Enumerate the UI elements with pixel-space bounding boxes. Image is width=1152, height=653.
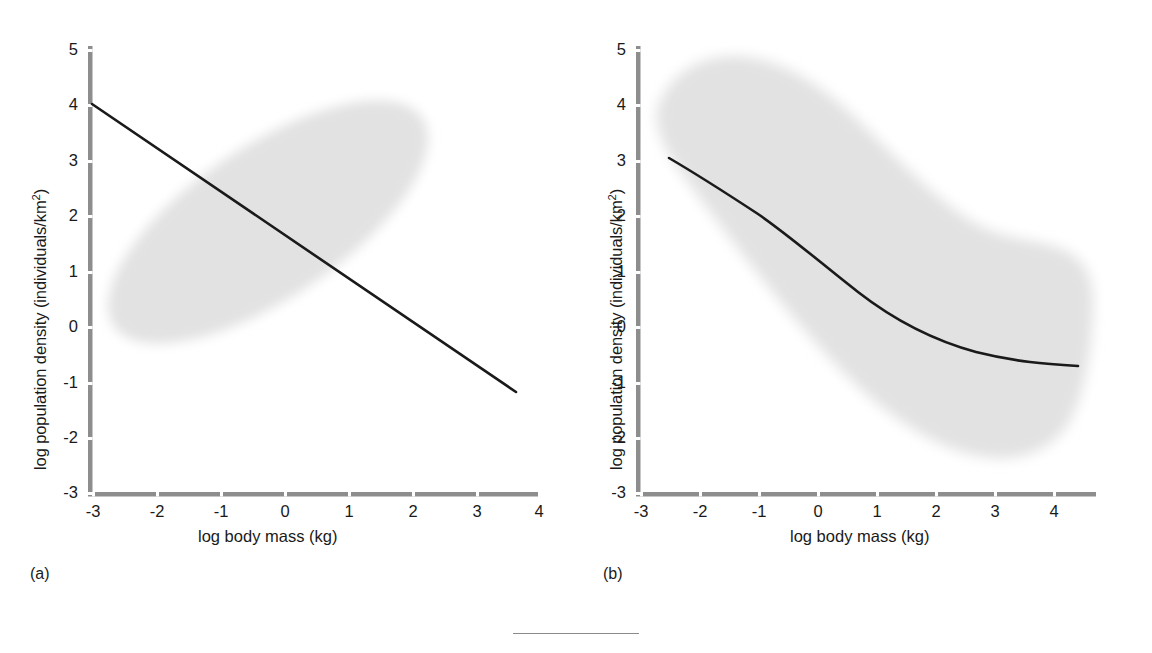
x-tick-label-4: 4	[526, 502, 552, 521]
figure-population-density-vs-body-mass: 5 4 3 2 1 0 -1 -2 -3 -3 -2 -1 0 1 2 3 4 …	[0, 0, 1152, 653]
x-tick-label-3: 3	[464, 502, 490, 521]
x-tick-label-neg1: -1	[746, 502, 772, 521]
y-tick-label-5: 5	[52, 40, 78, 59]
y-tick-label-neg3: -3	[600, 483, 626, 502]
x-tick-label-neg1: -1	[208, 502, 234, 521]
x-axis-line-a	[88, 492, 538, 497]
x-tick-label-2: 2	[400, 502, 426, 521]
y-tick-label-4: 4	[600, 95, 626, 114]
x-tick-label-neg2: -2	[687, 502, 713, 521]
x-tick-label-0: 0	[805, 502, 831, 521]
y-axis-title-b: log population density (individuals/km2)	[607, 189, 626, 470]
panel-label-b: (b)	[603, 565, 623, 583]
y-tick-label-2: 2	[52, 206, 78, 225]
y-axis-title-a: log population density (individuals/km2)	[31, 189, 50, 470]
panel-label-a: (a)	[30, 565, 50, 583]
y-tick-label-5: 5	[600, 40, 626, 59]
footer-divider-rule	[513, 633, 639, 634]
y-tick-label-0: 0	[52, 317, 78, 336]
x-tick-label-neg3: -3	[628, 502, 654, 521]
x-tick-label-0: 0	[272, 502, 298, 521]
x-axis-title-b: log body mass (kg)	[790, 527, 929, 546]
panel-b-plot	[576, 0, 1152, 653]
y-tick-label-neg3: -3	[52, 483, 78, 502]
y-axis-title-a-tail: )	[31, 189, 49, 194]
y-tick-label-4: 4	[52, 95, 78, 114]
x-tick-label-1: 1	[864, 502, 890, 521]
panel-a: 5 4 3 2 1 0 -1 -2 -3 -3 -2 -1 0 1 2 3 4 …	[0, 0, 576, 653]
y-tick-label-neg2: -2	[52, 428, 78, 447]
x-tick-label-neg3: -3	[80, 502, 106, 521]
y-axis-title-a-text: log population density (individuals/km	[31, 200, 49, 470]
y-axis-title-b-tail: )	[607, 189, 625, 194]
x-axis-title-a: log body mass (kg)	[198, 527, 337, 546]
data-cloud-region-b	[657, 56, 1093, 458]
x-tick-label-3: 3	[982, 502, 1008, 521]
x-tick-label-neg2: -2	[144, 502, 170, 521]
x-tick-label-4: 4	[1041, 502, 1067, 521]
y-tick-label-3: 3	[600, 151, 626, 170]
x-tick-label-2: 2	[923, 502, 949, 521]
y-axis-title-b-superscript: 2	[606, 194, 618, 200]
y-tick-label-neg1: -1	[52, 373, 78, 392]
y-axis-title-b-text: log population density (individuals/km	[607, 200, 625, 470]
x-axis-line-b	[636, 492, 1096, 497]
panel-b: 5 4 3 2 1 0 -1 -2 -3 -3 -2 -1 0 1 2 3 4 …	[576, 0, 1152, 653]
y-axis-title-a-superscript: 2	[30, 194, 42, 200]
y-tick-label-1: 1	[52, 262, 78, 281]
y-tick-label-3: 3	[52, 151, 78, 170]
x-tick-label-1: 1	[336, 502, 362, 521]
panel-a-plot	[0, 0, 576, 653]
